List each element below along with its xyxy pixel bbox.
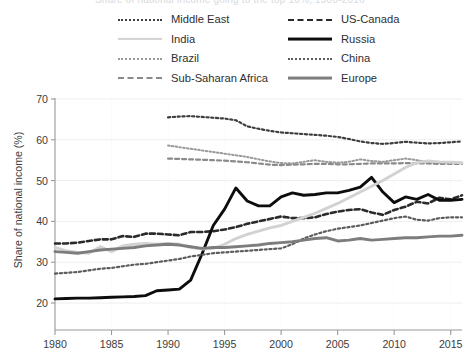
legend-column-2: US-Canada Russia China Europe <box>288 10 399 88</box>
legend-label-sub-saharan-africa: Sub-Saharan Africa <box>171 73 268 84</box>
clipped-title-strip: Share of national income going to the to… <box>0 0 469 9</box>
legend-swatch-china <box>288 54 332 64</box>
y-tick-label: 20 <box>36 297 48 309</box>
legend-swatch-sub-saharan-africa <box>118 73 162 83</box>
x-tick-label: 1990 <box>156 338 180 350</box>
legend-swatch-us-canada <box>288 15 332 25</box>
legend-swatch-brazil <box>118 54 162 64</box>
legend-item-russia[interactable]: Russia <box>288 30 399 50</box>
legend-item-us-canada[interactable]: US-Canada <box>288 10 399 30</box>
x-tick-label: 1980 <box>43 338 67 350</box>
y-tick-label: 70 <box>36 93 48 105</box>
legend-item-china[interactable]: China <box>288 49 399 69</box>
legend-label-russia: Russia <box>341 34 375 45</box>
legend-swatch-middle-east <box>118 15 162 25</box>
x-tick-label: 2010 <box>382 338 406 350</box>
x-tick-label: 2005 <box>326 338 350 350</box>
legend-item-middle-east[interactable]: Middle East <box>118 10 268 30</box>
x-tick-label: 2000 <box>269 338 293 350</box>
chart-legend: Middle East India Brazil Sub-Saharan Afr… <box>0 10 469 88</box>
y-tick-label: 50 <box>36 175 48 187</box>
legend-swatch-russia <box>288 34 332 44</box>
legend-item-sub-saharan-africa[interactable]: Sub-Saharan Africa <box>118 69 268 89</box>
x-tick-label: 1995 <box>213 338 237 350</box>
line-chart: 2030405060701980198519901995200020052010… <box>0 88 469 358</box>
legend-swatch-india <box>118 34 162 44</box>
chart-plot-area: 2030405060701980198519901995200020052010… <box>0 88 469 358</box>
y-tick-label: 60 <box>36 134 48 146</box>
legend-label-brazil: Brazil <box>171 53 199 64</box>
legend-label-india: India <box>171 34 195 45</box>
y-tick-label: 30 <box>36 256 48 268</box>
y-tick-label: 40 <box>36 215 48 227</box>
legend-item-brazil[interactable]: Brazil <box>118 49 268 69</box>
legend-label-europe: Europe <box>341 73 377 84</box>
legend-swatch-europe <box>288 73 332 83</box>
legend-label-middle-east: Middle East <box>171 14 229 25</box>
y-axis-title: Share of national income (%) <box>10 100 26 300</box>
data-series-group <box>55 116 462 299</box>
legend-item-india[interactable]: India <box>118 30 268 50</box>
page-title: Share of national income going to the to… <box>95 0 365 5</box>
legend-column-1: Middle East India Brazil Sub-Saharan Afr… <box>118 10 268 88</box>
x-tick-label: 2015 <box>439 338 463 350</box>
legend-label-china: China <box>341 53 370 64</box>
legend-label-us-canada: US-Canada <box>341 14 399 25</box>
y-axis-title-text: Share of national income (%) <box>12 132 24 269</box>
legend-item-europe[interactable]: Europe <box>288 69 399 89</box>
series-line-us-canada <box>55 195 462 243</box>
x-tick-label: 1985 <box>100 338 124 350</box>
